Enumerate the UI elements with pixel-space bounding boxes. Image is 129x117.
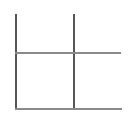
left-vertical-rule: [15, 14, 17, 109]
figure-canvas: [0, 0, 129, 117]
right-vertical-rule: [73, 14, 75, 109]
baseline-horizontal-rule: [15, 108, 122, 110]
upper-horizontal-rule: [15, 52, 121, 54]
